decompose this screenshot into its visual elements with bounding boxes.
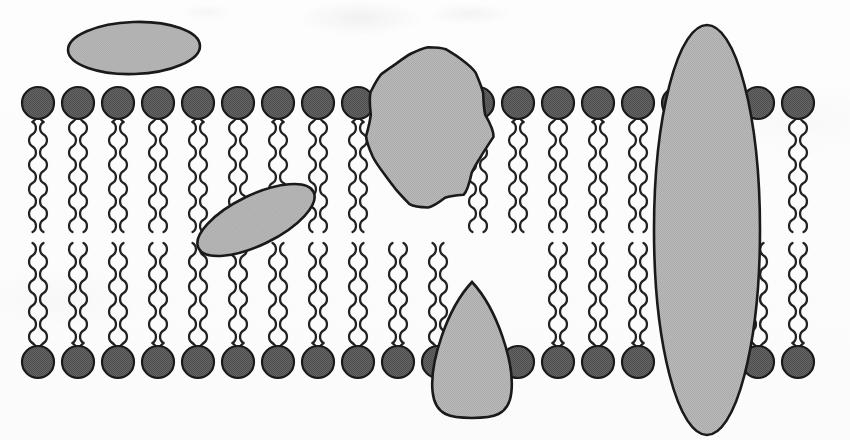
lipid-tail [280, 243, 287, 343]
lipid-head [62, 87, 94, 119]
diagram-svg-layer [0, 0, 850, 440]
lipid-tail [149, 122, 156, 232]
transmembrane-protein-channel-body [654, 25, 760, 435]
lipid-tail [549, 122, 556, 232]
lipid-head [222, 346, 254, 378]
lipid-tail [109, 243, 116, 343]
lipid-head [582, 346, 614, 378]
transmembrane-protein-channel [654, 25, 760, 435]
lipid-tail [349, 243, 356, 343]
lipid-tail [629, 122, 636, 232]
lipid-head [142, 87, 174, 119]
lipid-tail [760, 243, 767, 343]
lipid-tail [400, 243, 407, 343]
lipid-tail [149, 243, 156, 343]
embedded-protein-tilted-ellipse [188, 169, 325, 270]
lipid-tail [160, 243, 167, 343]
lipid-tail [200, 243, 207, 343]
lipid-head [182, 346, 214, 378]
lipid-tail [640, 122, 647, 232]
lipid-tail [800, 243, 807, 343]
lipid-head [542, 346, 574, 378]
lipid-head [622, 346, 654, 378]
integral-protein-teardrop [432, 282, 512, 418]
lipid-tail [349, 122, 356, 232]
peripheral-protein-top-left [67, 20, 201, 77]
lipid-tail [589, 122, 596, 232]
lipid-head [182, 87, 214, 119]
integral-protein-teardrop-body [432, 282, 512, 418]
lipid-head [782, 346, 814, 378]
lipid-tail [320, 243, 327, 343]
lipid-head [102, 87, 134, 119]
bilayer-diagram [0, 0, 850, 440]
lipid-tail [589, 243, 596, 343]
lipid-head [222, 87, 254, 119]
lipid-tail [229, 243, 236, 343]
lipid-head [62, 346, 94, 378]
lipid-tail [600, 243, 607, 343]
lipid-head [342, 346, 374, 378]
lipid-head [142, 346, 174, 378]
lipid-tail [320, 122, 327, 232]
lipid-head [262, 346, 294, 378]
lipid-head [262, 87, 294, 119]
lipid-tail [80, 243, 87, 343]
lipid-tail [160, 122, 167, 232]
embedded-protein-tilted-ellipse-body [188, 169, 325, 270]
lipid-head [582, 87, 614, 119]
lipid-tail [549, 243, 556, 343]
lipid-tail [80, 122, 87, 232]
lipid-tail [509, 122, 516, 232]
lipid-head [102, 346, 134, 378]
lipid-tail [120, 243, 127, 343]
lipid-tail [629, 243, 636, 343]
lipid-tail [360, 243, 367, 343]
peripheral-protein-top-left-body [67, 20, 201, 77]
lipid-tail [789, 243, 796, 343]
lipid-head [782, 87, 814, 119]
lipid-head [302, 346, 334, 378]
lipid-head [22, 346, 54, 378]
lipid-head [622, 87, 654, 119]
lipid-tail [560, 122, 567, 232]
lipid-tail [640, 243, 647, 343]
lipid-tail [389, 243, 396, 343]
lipid-tail [600, 122, 607, 232]
lipid-tail [800, 122, 807, 232]
lipid-head [502, 87, 534, 119]
lipid-tail [69, 243, 76, 343]
lipid-tail [520, 122, 527, 232]
lipid-tail [240, 243, 247, 343]
lipid-head [22, 87, 54, 119]
lipid-head [382, 346, 414, 378]
lipid-head [542, 87, 574, 119]
lipid-head [302, 87, 334, 119]
lipid-tail [29, 243, 36, 343]
lipid-tail [40, 243, 47, 343]
lipid-tail [560, 243, 567, 343]
lipid-tail [189, 122, 196, 232]
lipid-tail [40, 122, 47, 232]
lipid-tail [200, 122, 207, 232]
lipid-tail [29, 122, 36, 232]
lipid-tail [69, 122, 76, 232]
lipid-tail [309, 243, 316, 343]
lipid-tail [309, 122, 316, 232]
lipid-tail [429, 243, 436, 343]
lipid-tail [789, 122, 796, 232]
lipid-tail [269, 243, 276, 343]
lipid-tail [120, 122, 127, 232]
lipid-tail [189, 243, 196, 343]
lipid-tail [109, 122, 116, 232]
membrane-diagram-canvas [0, 0, 850, 440]
